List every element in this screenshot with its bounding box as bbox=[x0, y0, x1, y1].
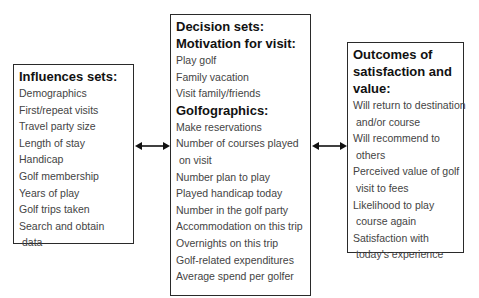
decision-box: Decision sets: Motivation for visit: Pla… bbox=[170, 14, 311, 296]
influence-item: Golf membership bbox=[19, 168, 128, 185]
decision-heading: Decision sets: bbox=[176, 18, 305, 35]
outcome-item: Will return to destination and/or course bbox=[353, 97, 458, 130]
outcome-item-continuation: visit to fees bbox=[353, 180, 458, 197]
motivation-heading: Motivation for visit: bbox=[176, 35, 305, 52]
golfographics-item: Average spend per golfer bbox=[176, 268, 305, 285]
golfographics-item-text: Accommodation on this trip bbox=[176, 220, 303, 232]
motivation-item-text: Play golf bbox=[176, 54, 216, 66]
golfographics-item: Golf-related expenditures bbox=[176, 252, 305, 269]
motivation-item: Family vacation bbox=[176, 69, 305, 86]
influence-item-text: Handicap bbox=[19, 153, 63, 165]
influence-item-text: Length of stay bbox=[19, 137, 85, 149]
bidirectional-arrow-right bbox=[312, 141, 347, 151]
influence-item-continuation: data bbox=[19, 234, 128, 251]
outcome-item-text: Perceived value of golf bbox=[353, 165, 459, 177]
influence-item: Search and obtain data bbox=[19, 218, 128, 251]
outcomes-heading-line: satisfaction and bbox=[353, 63, 458, 80]
outcome-item: Satisfaction with today's experience bbox=[353, 230, 458, 263]
outcome-item-text: Will recommend to bbox=[353, 132, 440, 144]
outcomes-heading-line: Outcomes of bbox=[353, 46, 458, 63]
golfographics-item-text: Number in the golf party bbox=[176, 204, 288, 216]
outcome-item-text: Satisfaction with bbox=[353, 232, 429, 244]
outcome-item: Likelihood to play course again bbox=[353, 197, 458, 230]
outcome-item: Will recommend to others bbox=[353, 130, 458, 163]
motivation-item: Play golf bbox=[176, 52, 305, 69]
influence-item-text: Search and obtain bbox=[19, 220, 104, 232]
influence-item: Demographics bbox=[19, 85, 128, 102]
motivation-item-text: Visit family/friends bbox=[176, 87, 260, 99]
outcome-item: Perceived value of golf visit to fees bbox=[353, 163, 458, 196]
bidirectional-arrow-left bbox=[135, 141, 170, 151]
double-arrow-icon bbox=[312, 141, 347, 151]
influence-item: Years of play bbox=[19, 185, 128, 202]
influence-item-text: Golf membership bbox=[19, 170, 99, 182]
influences-box: Influences sets: Demographics First/repe… bbox=[13, 64, 134, 244]
influence-item-text: Years of play bbox=[19, 187, 79, 199]
influence-item: Travel party size bbox=[19, 118, 128, 135]
golfographics-item-text: Overnights on this trip bbox=[176, 237, 278, 249]
golfographics-item: Number in the golf party bbox=[176, 202, 305, 219]
outcomes-box: Outcomes of satisfaction and value: Will… bbox=[347, 42, 464, 253]
golfographics-heading: Golfographics: bbox=[176, 102, 305, 119]
influence-item-text: Travel party size bbox=[19, 120, 96, 132]
golfographics-item: Make reservations bbox=[176, 119, 305, 136]
outcome-item-text: Will return to destination bbox=[353, 99, 466, 111]
golfographics-item: Accommodation on this trip bbox=[176, 218, 305, 235]
golfographics-item-continuation: on visit bbox=[176, 152, 305, 169]
outcome-item-continuation: and/or course bbox=[353, 114, 458, 131]
outcome-item-continuation: others bbox=[353, 147, 458, 164]
golfographics-item-text: Number of courses played bbox=[176, 137, 299, 149]
golfographics-item-text: Played handicap today bbox=[176, 187, 282, 199]
influence-item: Golf trips taken bbox=[19, 201, 128, 218]
influence-item-text: Golf trips taken bbox=[19, 203, 90, 215]
motivation-item: Visit family/friends bbox=[176, 85, 305, 102]
golfographics-item: Overnights on this trip bbox=[176, 235, 305, 252]
outcome-item-continuation: today's experience bbox=[353, 246, 458, 263]
influence-item: Length of stay bbox=[19, 135, 128, 152]
golfographics-item-text: Average spend per golfer bbox=[176, 270, 294, 282]
golfographics-item-text: Golf-related expenditures bbox=[176, 254, 294, 266]
motivation-item-text: Family vacation bbox=[176, 71, 249, 83]
outcome-item-text: Likelihood to play bbox=[353, 199, 434, 211]
double-arrow-icon bbox=[135, 141, 170, 151]
golfographics-item-text: Number plan to play bbox=[176, 171, 270, 183]
golfographics-item-text: Make reservations bbox=[176, 121, 262, 133]
golfographics-item: Number plan to play bbox=[176, 169, 305, 186]
influence-item: First/repeat visits bbox=[19, 102, 128, 119]
golfographics-item: Played handicap today bbox=[176, 185, 305, 202]
outcome-item-continuation: course again bbox=[353, 213, 458, 230]
influence-item-text: Demographics bbox=[19, 87, 87, 99]
influence-item-text: First/repeat visits bbox=[19, 104, 98, 116]
golfographics-item: Number of courses played on visit bbox=[176, 135, 305, 168]
outcomes-heading-line: value: bbox=[353, 80, 458, 97]
influence-item: Handicap bbox=[19, 151, 128, 168]
influences-heading: Influences sets: bbox=[19, 68, 128, 85]
